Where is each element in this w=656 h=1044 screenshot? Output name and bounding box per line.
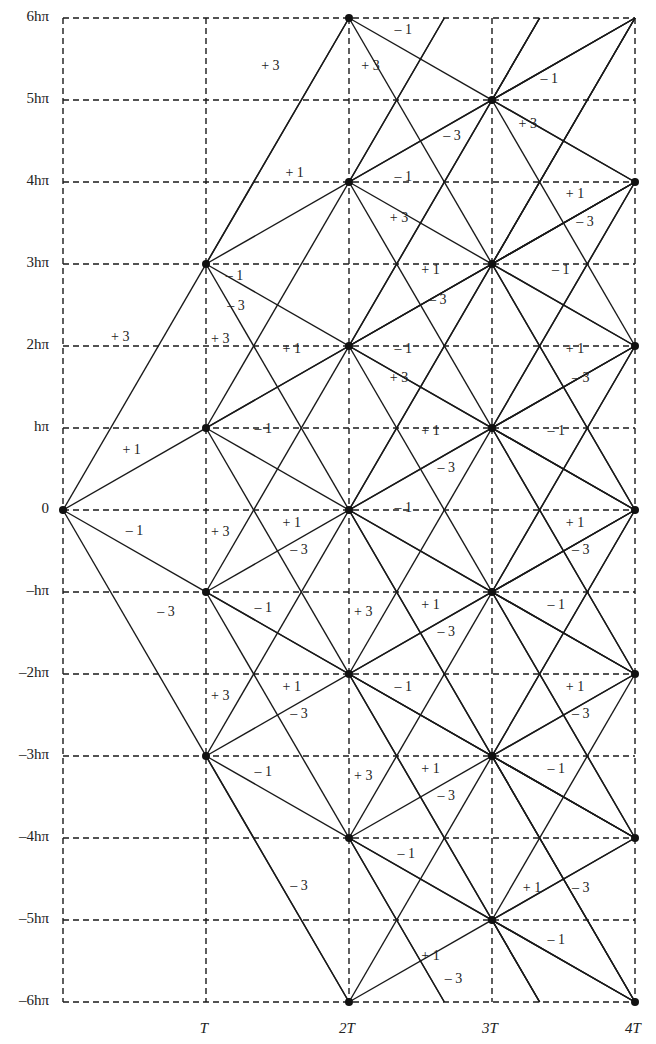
slope-label: + 3: [211, 688, 229, 703]
slope-label: + 3: [111, 329, 129, 344]
slope-line: [492, 920, 540, 1002]
slope-label: – 3: [571, 706, 590, 721]
slope-line: [492, 18, 635, 264]
lattice-node: [202, 588, 210, 596]
lattice-node: [631, 506, 639, 514]
slope-label: + 1: [421, 761, 439, 776]
slope-label: + 3: [354, 604, 372, 619]
y-tick-label: –6hπ: [18, 992, 50, 1008]
slope-label: – 1: [394, 169, 413, 184]
lattice-node: [488, 916, 496, 924]
x-tick-label: 4T: [625, 1020, 643, 1036]
slope-label: – 1: [394, 341, 413, 356]
x-tick-label: 2T: [339, 1020, 357, 1036]
lattice-node: [631, 998, 639, 1006]
lattice-node: [631, 342, 639, 350]
slope-label: + 1: [283, 515, 301, 530]
slope-label: + 1: [421, 262, 439, 277]
slope-line: [492, 346, 635, 428]
slope-label: + 1: [566, 186, 584, 201]
y-tick-label: 5hπ: [26, 90, 49, 106]
slope-label: – 3: [436, 624, 455, 639]
y-tick-label: –hπ: [25, 582, 49, 598]
slope-label: – 3: [289, 706, 308, 721]
slope-line: [492, 838, 635, 920]
lattice-node: [345, 998, 353, 1006]
slope-label: – 3: [575, 214, 594, 229]
y-tick-label: 4hπ: [26, 172, 49, 188]
slope-label: + 3: [211, 331, 229, 346]
lattice-node: [631, 178, 639, 186]
slope-line: [492, 510, 635, 592]
lattice-node: [345, 670, 353, 678]
slope-label: – 1: [539, 71, 558, 86]
slope-label: + 3: [261, 58, 279, 73]
slope-label: – 3: [226, 298, 245, 313]
slope-label: + 1: [421, 423, 439, 438]
slope-label: – 3: [289, 878, 308, 893]
slope-label: + 1: [122, 442, 140, 457]
slope-line: [492, 510, 635, 756]
y-tick-label: hπ: [34, 418, 50, 434]
slope-line: [492, 182, 635, 428]
lattice-node: [631, 670, 639, 678]
slope-label: + 1: [421, 948, 439, 963]
slope-label: + 1: [283, 341, 301, 356]
lattice-node: [488, 424, 496, 432]
slope-label: – 1: [394, 500, 413, 515]
slope-line: [206, 756, 349, 1002]
x-tick-label: 3T: [481, 1020, 500, 1036]
lattice-node: [345, 506, 353, 514]
slope-label: + 3: [361, 58, 379, 73]
slope-label: – 3: [571, 880, 590, 895]
slope-label: – 3: [571, 370, 590, 385]
slope-label: + 3: [519, 116, 537, 131]
slope-label: – 1: [253, 764, 272, 779]
lattice-node: [202, 260, 210, 268]
x-axis-labels: T2T3T4T: [200, 1020, 643, 1036]
lattice-node: [345, 342, 353, 350]
slope-label: – 1: [394, 679, 413, 694]
y-tick-label: 6hπ: [26, 8, 49, 24]
slope-label: + 3: [390, 370, 408, 385]
y-tick-label: –2hπ: [18, 664, 50, 680]
slope-label: – 3: [436, 788, 455, 803]
slope-label: – 3: [571, 542, 590, 557]
slope-label: – 3: [289, 542, 308, 557]
lattice-node: [345, 178, 353, 186]
lattice-node: [488, 752, 496, 760]
slope-label: + 1: [523, 880, 541, 895]
slope-label: – 3: [436, 460, 455, 475]
lattice-node: [488, 260, 496, 268]
slope-label: + 1: [421, 597, 439, 612]
slope-label: – 1: [253, 600, 272, 615]
lattice-node: [202, 752, 210, 760]
y-tick-label: 2hπ: [26, 336, 49, 352]
slope-label: – 3: [444, 971, 463, 986]
y-tick-label: –3hπ: [18, 746, 50, 762]
slope-label: – 1: [551, 262, 570, 277]
slope-label: – 1: [547, 423, 566, 438]
slope-label: – 1: [125, 523, 144, 538]
slope-label: – 3: [156, 604, 175, 619]
slope-line: [492, 18, 540, 100]
slope-label: + 1: [566, 341, 584, 356]
slope-line: [492, 346, 635, 592]
slope-label: + 1: [285, 165, 303, 180]
slope-label: – 3: [442, 128, 461, 143]
lattice-node: [202, 424, 210, 432]
lattice-node: [345, 14, 353, 22]
slope-line: [492, 674, 635, 920]
slope-label: – 1: [396, 846, 415, 861]
slope-line: [492, 182, 635, 264]
lattice-node: [59, 506, 67, 514]
slope-label: + 1: [566, 515, 584, 530]
y-axis-labels: 6hπ5hπ4hπ3hπ2hπhπ0–hπ–2hπ–3hπ–4hπ–5hπ–6h…: [18, 8, 50, 1008]
y-tick-label: –5hπ: [18, 910, 50, 926]
y-tick-label: 0: [42, 500, 50, 516]
lattice-node: [488, 588, 496, 596]
y-tick-label: –4hπ: [18, 828, 50, 844]
lattice-node: [488, 96, 496, 104]
slope-label: – 1: [225, 268, 244, 283]
lattice-node: [345, 834, 353, 842]
